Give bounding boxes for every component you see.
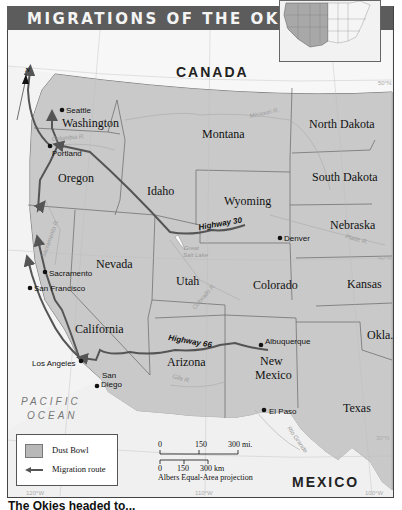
label-denver: Denver (284, 234, 310, 243)
label-colorado: Colorado (253, 278, 298, 292)
legend-dust-bowl: Dust Bowl (52, 445, 89, 455)
label-san-diego-1: San (102, 371, 116, 380)
label-mexico: MEXICO (292, 474, 359, 490)
label-nebraska: Nebraska (330, 218, 376, 232)
us-locator-icon (280, 1, 380, 61)
locator-inset-map (279, 0, 381, 62)
scale-km-0: 0 (158, 464, 162, 473)
map-legend: Dust Bowl Migration route (16, 434, 118, 486)
scale-mi-0: 0 (158, 440, 162, 449)
label-montana: Montana (202, 127, 245, 141)
label-oregon: Oregon (58, 171, 94, 185)
city-dot-san-francisco (28, 286, 33, 291)
dust-bowl-swatch (25, 444, 43, 458)
scale-mi-150: 150 (195, 440, 207, 449)
label-pacific: PACIFIC (21, 396, 81, 407)
label-south-dakota: South Dakota (312, 170, 378, 184)
label-lat-50: 50°N (378, 80, 391, 86)
label-great-salt-1: Great (184, 245, 199, 251)
label-texas: Texas (343, 401, 371, 415)
label-los-angeles: Los Angeles (32, 359, 76, 368)
migration-arrow-icon (25, 467, 43, 473)
label-sacramento: Sacramento (49, 269, 93, 278)
label-new-mexico-2: Mexico (255, 368, 292, 382)
city-dot-albuquerque (259, 343, 264, 348)
city-dot-sacramento (43, 270, 48, 275)
map-title: MIGRATIONS OF THE OKIES (27, 10, 314, 28)
scale-mi-300: 300 mi. (228, 440, 252, 449)
label-el-paso: El Paso (269, 407, 297, 416)
label-great-salt-2: Salt Lake (183, 252, 209, 258)
label-lon-110: 110°W (195, 490, 213, 496)
city-dot-san-diego (95, 384, 100, 389)
label-idaho: Idaho (147, 184, 174, 198)
label-lon-100: 100°W (365, 490, 383, 496)
label-lat-30-text: 30°N (376, 435, 389, 441)
label-oklahoma: Okla. (367, 328, 393, 342)
label-san-diego-2: Diego (101, 380, 122, 389)
label-north-dakota: North Dakota (309, 117, 375, 131)
label-california: California (75, 322, 124, 336)
label-washington: Washington (62, 116, 119, 130)
projection-note: Albers Equal-Area projection (158, 473, 253, 482)
north-label: N (24, 66, 31, 74)
label-seattle: Seattle (66, 106, 91, 115)
city-dot-los-angeles (79, 359, 84, 364)
city-dot-el-paso (262, 408, 267, 413)
label-portland: Portland (52, 149, 82, 158)
city-dot-denver (278, 236, 283, 241)
label-wyoming: Wyoming (224, 194, 271, 208)
label-ocean: OCEAN (27, 410, 78, 421)
label-san-francisco: San Francisco (34, 284, 86, 293)
label-kansas: Kansas (347, 277, 382, 291)
scale-km-150: 150 (177, 464, 189, 473)
scale-bar: 0 150 300 mi. 0 150 300 km Albers Equal-… (158, 440, 278, 485)
scale-km-300: 300 km (200, 464, 224, 473)
label-new-mexico-1: New (260, 354, 283, 368)
label-lon-120: 120°W (26, 490, 44, 496)
label-nevada: Nevada (96, 257, 133, 271)
city-dot-portland (48, 144, 53, 149)
label-albuquerque: Albuquerque (265, 337, 311, 346)
label-utah: Utah (176, 274, 199, 288)
label-lat-40: 40°N (378, 255, 391, 261)
legend-migration-route: Migration route (52, 464, 106, 474)
label-arizona: Arizona (167, 355, 206, 369)
city-dot-seattle (60, 108, 65, 113)
label-canada: CANADA (176, 64, 249, 80)
